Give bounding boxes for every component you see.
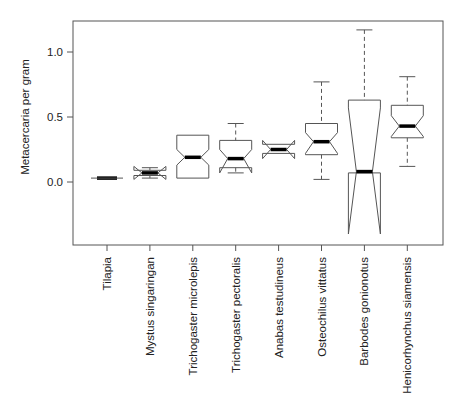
x-tick-label: Trichogaster microlepis	[187, 257, 199, 376]
y-tick-label: 1.0	[47, 46, 63, 58]
box-trichogaster-pectoralis	[220, 124, 252, 173]
box-body	[306, 124, 338, 155]
box-body	[348, 100, 380, 234]
box-barbodes-gonionotus	[348, 30, 380, 234]
y-tick-label: 0.0	[47, 176, 63, 188]
box-henicorhynchus-siamensis	[391, 77, 423, 167]
box-trichogaster-microlepis	[177, 135, 209, 178]
box-mystus-singaringan	[134, 166, 166, 179]
box-body	[220, 140, 252, 173]
box-anabas-testudineus	[263, 140, 295, 158]
y-axis: 0.00.51.0	[47, 46, 73, 188]
x-tick-label: Osteochilus vittatus	[316, 257, 328, 357]
x-tick-label: Henicorhynchus siamensis	[401, 257, 413, 394]
boxes	[91, 30, 423, 234]
x-tick-label: Mystus singaringan	[144, 257, 156, 356]
boxplot-chart: 0.00.51.0 Metacercaria per gram TilapiaM…	[0, 0, 466, 397]
x-tick-label: Barbodes gonionotus	[358, 257, 370, 366]
x-tick-label: Trichogaster pectoralis	[230, 257, 242, 373]
x-tick-label: Tilapia	[101, 256, 113, 290]
x-tick-label: Anabas testudineus	[273, 257, 285, 358]
box-body	[391, 105, 423, 138]
y-tick-label: 0.5	[47, 111, 63, 123]
x-axis: TilapiaMystus singaringanTrichogaster mi…	[101, 245, 413, 394]
y-axis-label: Metacercaria per gram	[19, 59, 31, 175]
box-osteochilus-vittatus	[306, 82, 338, 179]
plot-frame	[73, 21, 443, 245]
